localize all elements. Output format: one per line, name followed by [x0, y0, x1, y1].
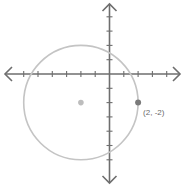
axis-ticks [24, 17, 167, 160]
coordinate-plane: (2, -2) [0, 0, 185, 187]
marked-point [135, 100, 141, 106]
marked-point-label: (2, -2) [143, 108, 165, 117]
center-point [78, 100, 84, 106]
